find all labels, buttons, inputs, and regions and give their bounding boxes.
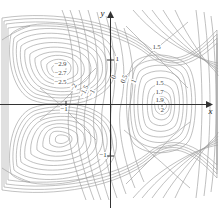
contour-plot-figure: y x 1 −1 −1 −2.9 −2.7 −2.5 −2 −1.5 −1 0 …: [0, 0, 219, 208]
y-axis-arrow: [107, 11, 114, 18]
x-axis-label: x: [208, 108, 213, 115]
contour-label-left-2: −2.7: [54, 70, 67, 77]
contour-plot-canvas: [0, 0, 219, 208]
y-tick-label-1: 1: [115, 56, 119, 63]
x-tick-label-minus1: −1: [60, 106, 68, 113]
y-tick-label-minus1: −1: [99, 152, 107, 159]
contour-label-right-3: 1.9: [155, 97, 164, 104]
contour-label-right-2: 1.7: [155, 89, 164, 96]
y-axis-label: y: [100, 10, 105, 17]
contour-label-right-4: 2: [160, 107, 164, 114]
contour-label-upper-saddle: 1.5: [152, 44, 161, 51]
contour-label-right-1: 1.5: [155, 80, 164, 87]
contour-family-left-lower: [10, 103, 117, 184]
contour-label-left-3: −2.5: [54, 79, 67, 86]
contour-label-left-1: −2.9: [54, 61, 67, 68]
